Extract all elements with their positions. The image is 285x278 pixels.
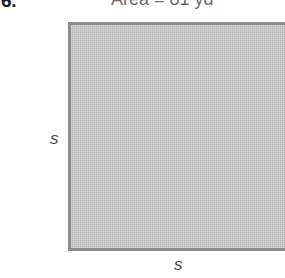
problem-number-label: 6.	[1, 0, 16, 10]
side-label-bottom: s	[174, 256, 183, 273]
geometry-figure: 6. Area = 81 yd2 s s	[0, 0, 285, 278]
side-label-left: s	[50, 130, 59, 147]
area-caption-text: Area = 81 yd	[111, 0, 214, 9]
area-caption: Area = 81 yd2	[111, 0, 220, 8]
square-shape	[68, 22, 285, 251]
